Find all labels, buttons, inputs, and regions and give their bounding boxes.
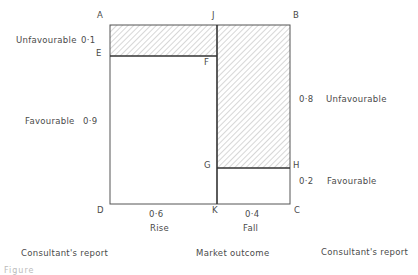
rise-label: Rise <box>150 223 169 233</box>
right-unfavourable-label: Unfavourable <box>326 94 387 104</box>
left-unfavourable-value: 0·1 <box>81 35 95 45</box>
rise-value: 0·6 <box>149 209 163 219</box>
footer-market-outcome: Market outcome <box>196 248 269 258</box>
point-label-A: A <box>97 10 103 20</box>
point-label-E: E <box>96 48 101 58</box>
point-label-G: G <box>204 160 211 170</box>
footer-left-consultants-report: Consultant's report <box>21 248 108 258</box>
point-label-J: J <box>212 10 215 20</box>
point-label-F: F <box>204 57 209 67</box>
fall-label: Fall <box>243 223 258 233</box>
point-label-B: B <box>293 10 299 20</box>
left-favourable-label: Favourable <box>25 116 75 126</box>
point-label-C: C <box>294 205 300 215</box>
point-label-K: K <box>212 205 218 215</box>
right-favourable-value: 0·2 <box>299 176 313 186</box>
figure-caption: Figure <box>4 266 34 275</box>
footer-right-consultants-report: Consultant's report <box>321 247 408 257</box>
left-unfavourable-label: Unfavourable <box>16 35 77 45</box>
region-rise-unfavourable <box>110 25 217 56</box>
fall-value: 0·4 <box>245 209 259 219</box>
point-label-H: H <box>293 160 299 170</box>
right-unfavourable-value: 0·8 <box>299 94 313 104</box>
point-label-D: D <box>97 205 104 215</box>
right-favourable-label: Favourable <box>327 176 377 186</box>
region-fall-unfavourable <box>217 25 290 168</box>
left-favourable-value: 0·9 <box>83 116 97 126</box>
